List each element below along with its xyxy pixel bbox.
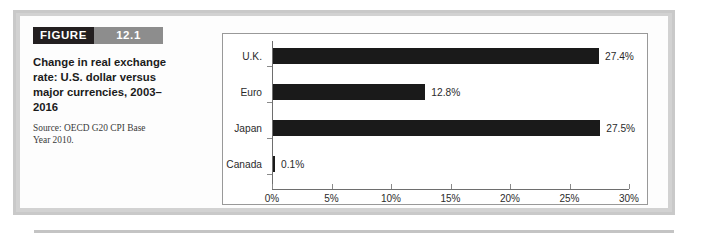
bar-chart-plot: 0%5%10%15%20%25%30%U.K.27.4%Euro12.8%Jap… (223, 34, 647, 204)
x-axis-tick (391, 184, 392, 189)
figure-tag-number: 12.1 (94, 27, 163, 44)
x-axis-tick (272, 184, 273, 189)
figure-page: FIGURE 12.1 Change in real exchange rate… (0, 0, 706, 248)
y-axis-tick (267, 174, 272, 175)
bar-value-label: 27.4% (605, 51, 634, 62)
x-axis-tick-label: 30% (619, 193, 639, 204)
x-axis-line (272, 189, 629, 190)
bar-value-label: 12.8% (431, 87, 460, 98)
x-axis-tick (570, 184, 571, 189)
x-axis-tick-label: 5% (324, 193, 338, 204)
x-axis-tick-label: 20% (500, 193, 520, 204)
x-axis-tick (332, 184, 333, 189)
y-axis-tick (267, 138, 272, 139)
x-axis-tick-label: 0% (265, 193, 279, 204)
x-axis-tick-label: 15% (440, 193, 460, 204)
bar (273, 156, 275, 172)
category-label: Canada (226, 159, 262, 170)
bar-value-label: 0.1% (281, 159, 304, 170)
x-axis-tick (451, 184, 452, 189)
category-label: Japan (234, 123, 262, 134)
figure-source-note: Source: OECD G20 CPI Base Year 2010. (33, 122, 161, 146)
figure-tag: FIGURE 12.1 (33, 27, 163, 44)
figure-title: Change in real exchange rate: U.S. dolla… (33, 55, 168, 115)
bar (273, 84, 425, 100)
category-label: U.K. (242, 51, 262, 62)
y-axis-tick (267, 66, 272, 67)
bar (273, 48, 599, 64)
figure-caption-block: FIGURE 12.1 Change in real exchange rate… (33, 27, 193, 146)
bar (273, 120, 600, 136)
x-axis-tick-label: 25% (559, 193, 579, 204)
chart-panel: 0%5%10%15%20%25%30%U.K.27.4%Euro12.8%Jap… (222, 33, 648, 205)
category-label: Euro (240, 87, 262, 98)
figure-tag-word: FIGURE (33, 27, 94, 44)
bar-value-label: 27.5% (606, 123, 635, 134)
x-axis-tick-label: 10% (381, 193, 401, 204)
x-axis-tick (510, 184, 511, 189)
y-axis-tick (267, 102, 272, 103)
x-axis-tick (629, 184, 630, 189)
page-divider-rule (34, 230, 674, 233)
